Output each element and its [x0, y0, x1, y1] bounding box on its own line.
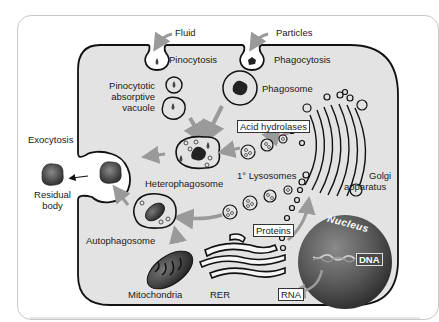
label-pinocytosis: Pinocytosis	[169, 54, 217, 65]
label-proteins: Proteins	[253, 224, 294, 237]
label-phagocytosis: Phagocytosis	[274, 54, 331, 65]
particle-icon	[248, 57, 256, 65]
fluid-arrow-icon	[158, 34, 172, 44]
label-rer: RER	[210, 289, 230, 300]
label-residual-body: Residual body	[30, 189, 75, 211]
droplet-icon	[156, 58, 159, 65]
label-phagosome: Phagosome	[262, 83, 313, 94]
label-acid-hydrolases: Acid hydrolases	[237, 120, 310, 133]
particles-arrow-icon	[254, 34, 268, 44]
label-fluid: Fluid	[175, 27, 196, 38]
label-primary-lysosomes: 1° Lysosomes	[237, 170, 296, 181]
label-autophagosome: Autophagosome	[86, 235, 155, 246]
label-particles: Particles	[276, 27, 312, 38]
residual-body	[42, 164, 63, 186]
label-mitochondria: Mitochondria	[128, 289, 182, 300]
label-pinocytotic-vacuole: Pinocytotic absorptive vacuole	[100, 80, 155, 113]
label-heterophagosome: Heterophagosome	[145, 178, 223, 189]
label-golgi-apparatus: Golgi apparatus	[366, 170, 391, 192]
label-exocytosis: Exocytosis	[28, 134, 73, 145]
label-rna: RNA	[278, 288, 304, 301]
label-dna: DNA	[356, 253, 383, 266]
